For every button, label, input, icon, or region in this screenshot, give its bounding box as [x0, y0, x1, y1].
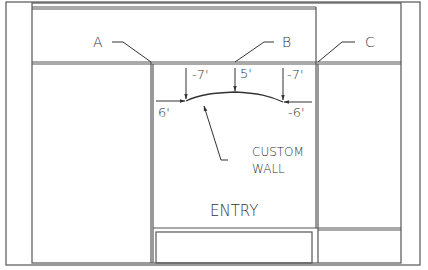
- dim-right-offset: -6': [288, 106, 305, 119]
- callout-c-label: C: [365, 35, 375, 49]
- annotation-line1: CUSTOM: [252, 146, 304, 158]
- dim-right-drop: -7': [287, 68, 304, 81]
- dim-center-drop: 5': [240, 67, 252, 80]
- custom-wall-curve: [186, 92, 283, 102]
- room-label-entry: ENTRY: [210, 204, 259, 219]
- floor-plan-drawing: [0, 0, 428, 270]
- dim-left-drop: -7': [192, 68, 209, 81]
- leader-b: [235, 42, 274, 62]
- callout-b-label: B: [282, 35, 291, 49]
- callout-a-label: A: [93, 35, 103, 49]
- leader-a: [112, 42, 151, 62]
- annotation-line2: WALL: [252, 163, 285, 175]
- leader-c: [318, 42, 355, 62]
- dim-left-offset: 6': [158, 106, 170, 119]
